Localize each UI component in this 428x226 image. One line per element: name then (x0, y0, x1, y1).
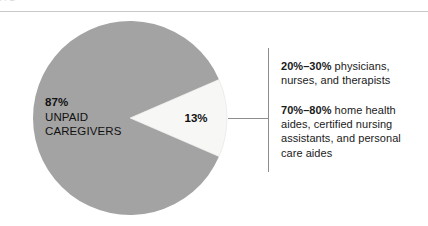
pie-slice-label-unpaid-caregivers: 87% UNPAID CAREGIVERS (45, 95, 150, 139)
annotation-range-1: 70%–80% (281, 104, 332, 116)
pie-slice-label-paid-workforce: 13% (172, 111, 220, 125)
annotation-home-health-aides: 70%–80% home health aides, certified nur… (281, 103, 423, 160)
annotation-range-0: 20%–30% (281, 60, 332, 72)
pie-chart-figure: A G 87% UNPAID CAREGIVERS 13% 20%–30% ph… (0, 0, 428, 226)
annotation-physicians: 20%–30% physicians, nurses, and therapis… (281, 59, 423, 87)
callout-divider-rule (268, 48, 269, 172)
pie-slice-percent-major: 87% (45, 95, 150, 110)
callout-leader-line (228, 118, 269, 119)
pie-slice-caption-major: UNPAID CAREGIVERS (45, 110, 150, 139)
